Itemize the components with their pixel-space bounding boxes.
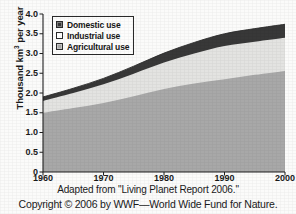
legend-swatch-industrial-icon [56,32,63,39]
y-tick-label: 3.5 [14,29,38,38]
legend-label-domestic: Domestic use [67,20,120,30]
x-tick-label: 2000 [265,174,296,183]
legend-swatch-domestic-icon [56,21,63,28]
caption-copyright: Copyright © 2006 by WWF—World Wide Fund … [0,198,296,210]
caption-source: Adapted from "Living Planet Report 2006.… [0,184,296,195]
y-tick-label: 2.5 [14,69,38,78]
x-tick-label: 1970 [84,174,124,183]
legend-label-industrial: Industrial use [67,31,120,41]
legend-item-agricultural: Agricultural use [56,41,129,52]
legend-item-domestic: Domestic use [56,19,129,30]
x-tick-label: 1980 [144,174,184,183]
y-tick-label: 4.0 [14,10,38,19]
y-tick-label: 0.5 [14,148,38,157]
legend-item-industrial: Industrial use [56,30,129,41]
y-tick-label: 1.5 [14,108,38,117]
x-tick-label: 1990 [205,174,245,183]
x-tick-label: 1960 [23,174,63,183]
y-tick-label: 1.0 [14,128,38,137]
y-tick-label: 2.0 [14,89,38,98]
stacked-area-chart [0,0,296,182]
y-tick-label: 3.0 [14,49,38,58]
chart-legend: Domestic use Industrial use Agricultural… [52,16,134,55]
plot-area: Thousand km3 per year 00.51.01.52.02.53.… [0,0,296,182]
figure-container: Thousand km3 per year 00.51.01.52.02.53.… [0,0,296,214]
legend-label-agricultural: Agricultural use [67,42,129,52]
y-axis-ticks: 00.51.01.52.02.53.03.54.0 [12,0,38,182]
legend-swatch-agricultural-icon [56,43,63,50]
